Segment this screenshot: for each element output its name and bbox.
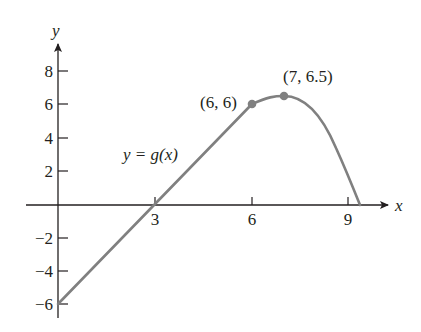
y-tick-label-neg4: −4 (35, 262, 54, 281)
y-axis-label: y (50, 21, 60, 40)
y-tick-label-4: 4 (45, 129, 54, 148)
point-7-6.5 (280, 92, 289, 101)
point-label-6-6: (6, 6) (200, 93, 237, 112)
point-label-7-6.5: (7, 6.5) (283, 67, 333, 86)
x-tick-label-9: 9 (344, 210, 353, 229)
graph-figure: x y 3 6 9 8 6 4 2 −2 −4 −6 (6, 6) (7, 6.… (0, 0, 421, 332)
y-tick-label-6: 6 (45, 95, 54, 114)
x-ticks (155, 197, 348, 205)
x-tick-label-3: 3 (151, 210, 160, 229)
x-axis-label: x (394, 196, 403, 215)
function-curve-g (58, 96, 360, 304)
x-tick-label-6: 6 (248, 210, 257, 229)
function-label: y = g(x) (121, 145, 178, 164)
y-ticks (58, 71, 68, 304)
y-tick-label-8: 8 (45, 62, 54, 81)
y-tick-label-neg6: −6 (35, 295, 53, 314)
y-tick-label-neg2: −2 (35, 229, 53, 248)
y-tick-label-2: 2 (45, 162, 54, 181)
point-6-6 (248, 100, 257, 109)
